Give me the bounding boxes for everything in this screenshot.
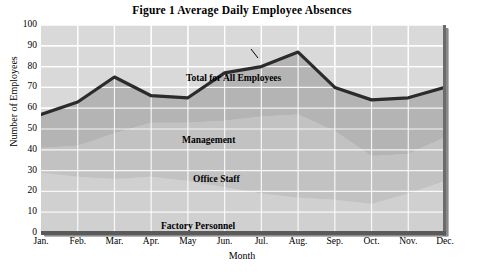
x-tick-label: Jan. <box>21 236 61 246</box>
y-tick-label: 100 <box>7 19 37 29</box>
series-label-factory: Factory Personnel <box>161 221 235 231</box>
series-label-office: Office Staff <box>193 174 240 184</box>
x-tick-label: Jun. <box>205 236 245 246</box>
x-tick-label: Feb. <box>58 236 98 246</box>
y-tick-label: 90 <box>7 40 37 50</box>
total-leader-line <box>251 49 258 58</box>
y-tick-label: 10 <box>7 206 37 216</box>
x-tick-label: Aug. <box>278 236 318 246</box>
plot-area: Total for All Employees Management Offic… <box>41 25 445 233</box>
y-tick-label: 80 <box>7 61 37 71</box>
chart-title: Figure 1 Average Daily Employee Absences <box>0 4 484 16</box>
x-axis-title: Month <box>0 250 484 261</box>
series-label-management: Management <box>182 135 235 145</box>
y-tick-label: 50 <box>7 123 37 133</box>
y-tick-label: 70 <box>7 81 37 91</box>
y-tick-label: 60 <box>7 102 37 112</box>
x-tick-label: Oct. <box>352 236 392 246</box>
y-tick-label: 20 <box>7 185 37 195</box>
x-tick-label: Sep. <box>315 236 355 246</box>
x-tick-label: Jul. <box>241 236 281 246</box>
x-tick-label: May <box>168 236 208 246</box>
x-tick-label: Dec. <box>425 236 465 246</box>
x-tick-label: Nov. <box>388 236 428 246</box>
x-tick-label: Mar. <box>94 236 134 246</box>
x-tick-label: Apr. <box>131 236 171 246</box>
series-label-total: Total for All Employees <box>186 73 281 83</box>
chart-container: Figure 1 Average Daily Employee Absences… <box>0 0 484 273</box>
plot-right-edge <box>443 25 446 236</box>
chart-svg <box>41 25 445 233</box>
y-tick-label: 30 <box>7 165 37 175</box>
y-tick-label: 40 <box>7 144 37 154</box>
plot-bottom-edge <box>41 231 446 235</box>
